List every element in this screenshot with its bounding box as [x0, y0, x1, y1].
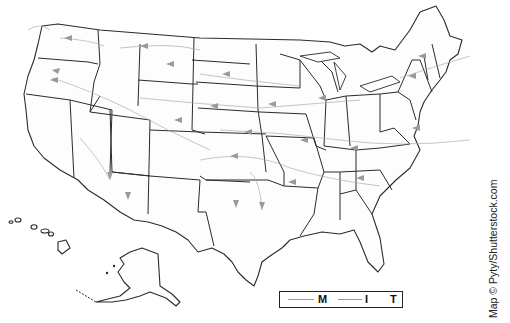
us-map [0, 0, 510, 323]
legend: M I T [279, 291, 403, 308]
legend-label-t: T [390, 292, 397, 307]
legend-line-i [338, 299, 362, 300]
legend-label-i: I [365, 292, 368, 307]
map-credit: Map © Pyty/Shutterstock.com [487, 180, 499, 318]
legend-line-m [288, 299, 314, 300]
alaska [76, 248, 180, 306]
hawaii [9, 218, 70, 254]
legend-label-m: M [318, 292, 327, 307]
